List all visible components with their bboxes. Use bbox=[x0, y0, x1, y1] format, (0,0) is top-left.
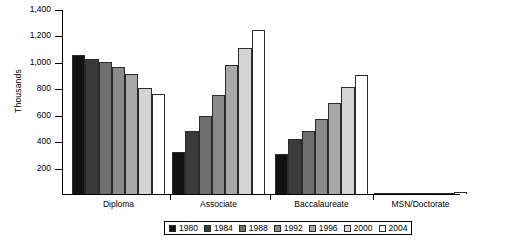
bar bbox=[454, 192, 467, 194]
bar bbox=[341, 87, 354, 194]
x-axis-category-label: Associate bbox=[172, 199, 265, 209]
bar bbox=[355, 75, 368, 194]
legend-swatch bbox=[239, 225, 246, 232]
y-axis-tick-label: 1,400 bbox=[30, 4, 51, 14]
x-axis-tick bbox=[170, 195, 171, 200]
y-axis-tick-label: 800 bbox=[37, 83, 51, 93]
bar bbox=[185, 131, 198, 194]
bar bbox=[199, 116, 212, 194]
bar bbox=[152, 94, 165, 194]
legend-swatch bbox=[309, 225, 316, 232]
bar bbox=[225, 65, 238, 195]
bar bbox=[328, 103, 341, 194]
y-axis-tick: 1,400 bbox=[55, 10, 62, 11]
bar-group bbox=[374, 10, 467, 194]
x-axis-category-label: MSN/Doctorate bbox=[374, 199, 467, 209]
bar bbox=[212, 95, 225, 194]
bar bbox=[427, 193, 440, 194]
y-axis-tick-label: 1,000 bbox=[30, 57, 51, 67]
legend-label: 1988 bbox=[249, 224, 268, 233]
legend-label: 1984 bbox=[214, 224, 233, 233]
bar bbox=[125, 74, 138, 194]
y-axis-line bbox=[62, 10, 63, 195]
bar bbox=[315, 119, 328, 194]
legend-item: 1984 bbox=[204, 224, 233, 233]
bar bbox=[99, 62, 112, 194]
bar-group-bars bbox=[72, 10, 165, 194]
bar-group-bars bbox=[374, 10, 467, 194]
legend-item: 1988 bbox=[239, 224, 268, 233]
legend-item: 2004 bbox=[379, 224, 408, 233]
legend-swatch bbox=[379, 225, 386, 232]
y-axis-tick-label: 200 bbox=[37, 163, 51, 173]
legend-label: 1992 bbox=[284, 224, 303, 233]
legend-swatch bbox=[169, 225, 176, 232]
bar bbox=[275, 154, 288, 194]
bar bbox=[112, 67, 125, 194]
y-axis-title: Thousands bbox=[13, 51, 23, 131]
x-axis-line bbox=[62, 194, 460, 195]
legend-swatch bbox=[344, 225, 351, 232]
x-axis-category-label: Baccalaureate bbox=[275, 199, 368, 209]
bar bbox=[387, 193, 400, 194]
legend-label: 1980 bbox=[179, 224, 198, 233]
bar-chart: Thousands 1,4001,2001,000800600400200 Di… bbox=[0, 0, 528, 245]
y-axis-tick: 200 bbox=[55, 169, 62, 170]
x-axis-category-label: Diploma bbox=[72, 199, 165, 209]
chart-legend: 1980198419881992199620002004 bbox=[164, 221, 412, 235]
bar bbox=[238, 48, 251, 194]
bar bbox=[172, 152, 185, 194]
legend-item: 1992 bbox=[274, 224, 303, 233]
legend-item: 2000 bbox=[344, 224, 373, 233]
legend-label: 1996 bbox=[319, 224, 338, 233]
y-axis-tick: 800 bbox=[55, 89, 62, 90]
bar-group bbox=[275, 10, 368, 194]
y-axis-tick: 1,000 bbox=[55, 63, 62, 64]
x-axis-tick bbox=[270, 195, 271, 200]
legend-item: 1980 bbox=[169, 224, 198, 233]
bar bbox=[401, 193, 414, 194]
y-axis-tick: 600 bbox=[55, 116, 62, 117]
legend-swatch bbox=[274, 225, 281, 232]
bar-group-bars bbox=[275, 10, 368, 194]
bar bbox=[72, 55, 85, 194]
legend-label: 2000 bbox=[354, 224, 373, 233]
bar bbox=[302, 131, 315, 194]
bar-group-bars bbox=[172, 10, 265, 194]
bar bbox=[85, 59, 98, 194]
y-axis-tick-label: 1,200 bbox=[30, 30, 51, 40]
bar bbox=[288, 139, 301, 194]
bar bbox=[138, 88, 151, 194]
y-axis-tick-label: 400 bbox=[37, 136, 51, 146]
bar bbox=[414, 193, 427, 194]
legend-label: 2004 bbox=[389, 224, 408, 233]
plot-area: 1,4001,2001,000800600400200 bbox=[62, 10, 460, 195]
bar-group bbox=[72, 10, 165, 194]
bar bbox=[374, 193, 387, 194]
bar-group bbox=[172, 10, 265, 194]
bar bbox=[440, 193, 453, 194]
bar bbox=[252, 30, 265, 194]
legend-swatch bbox=[204, 225, 211, 232]
y-axis-tick-label: 600 bbox=[37, 110, 51, 120]
legend-item: 1996 bbox=[309, 224, 338, 233]
y-axis-tick: 1,200 bbox=[55, 36, 62, 37]
y-axis-tick: 400 bbox=[55, 142, 62, 143]
